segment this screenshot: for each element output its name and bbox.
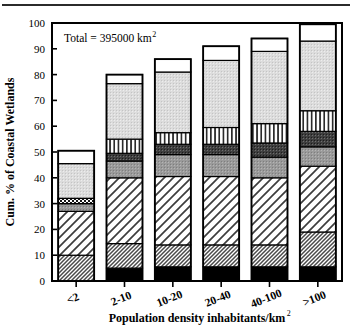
x-axis: <22-1010-2020-4040-100>100 [65, 281, 328, 310]
bar-segment-light-gray [203, 60, 239, 127]
bar-segment-diagonal-hatch [300, 166, 336, 232]
bar-segment-medium-gray [107, 161, 143, 178]
bar-segment-white [252, 38, 288, 51]
x-axis-tick-label: 2-10 [109, 289, 133, 308]
bar-segment-checkered-band [58, 198, 94, 203]
bar-segment-vertical-stripe [155, 133, 191, 145]
x-axis-title: Population density inhabitants/km [109, 311, 286, 325]
bar-segment-medium-gray [300, 147, 336, 166]
bar-40-100 [252, 38, 288, 281]
bar-segment-diagonal-hatch [252, 178, 288, 245]
bar-10-20 [155, 59, 191, 281]
bar-segment-dark-gray-speckle [300, 131, 336, 146]
bar-segment-light-gray [300, 41, 336, 111]
bar-segment-medium-gray [58, 204, 94, 212]
bar-20-40 [203, 46, 239, 281]
x-axis-tick-label: >100 [301, 288, 328, 308]
bar-segment-solid-black [300, 267, 336, 281]
page-top-rule [2, 4, 350, 6]
bar-segment-light-gray [58, 164, 94, 199]
y-axis-tick-label: 10 [34, 249, 46, 261]
bar-segment-white [300, 24, 336, 41]
bar-segment-solid-black [107, 268, 143, 281]
y-axis-tick-label: 50 [34, 146, 46, 158]
bar-segment-medium-gray [155, 155, 191, 177]
bar-segment-white [58, 151, 94, 164]
bar-segment-light-gray [155, 72, 191, 133]
bar-segment-dense-crosshatch [300, 232, 336, 267]
bar-segment-solid-black [203, 267, 239, 281]
x-axis-title-superscript: 2 [287, 309, 291, 318]
bar-segment-solid-black [252, 267, 288, 281]
bar-segment-dark-gray-speckle [155, 144, 191, 154]
bar-segment-dark-gray-speckle [203, 144, 239, 154]
bar-segment-dense-crosshatch [107, 244, 143, 269]
x-axis-tick-label: <2 [65, 290, 81, 306]
x-axis-tick-label: 20-40 [203, 288, 233, 309]
x-axis-tick-label: 40-100 [249, 287, 284, 310]
y-axis-title: Cum. % of Coastal Wetlands [3, 77, 17, 226]
bar-segment-dense-crosshatch [58, 255, 94, 281]
y-axis-tick-label: 30 [34, 198, 46, 210]
bar-segment-vertical-stripe [203, 127, 239, 144]
bar-segment-diagonal-hatch [155, 177, 191, 245]
bar-2-10 [107, 75, 143, 281]
y-axis-tick-label: 60 [34, 120, 46, 132]
bar-segment-diagonal-hatch [203, 177, 239, 245]
bar-segment-dark-gray-speckle [252, 143, 288, 157]
y-axis-tick-label: 100 [29, 17, 46, 29]
x-axis-tick-label: 10-20 [155, 288, 185, 309]
bar-segment-diagonal-hatch [58, 211, 94, 255]
bar-segment-solid-black [155, 267, 191, 281]
bar->100 [300, 24, 336, 281]
bar-segment-dense-crosshatch [203, 245, 239, 267]
y-axis-tick-label: 40 [34, 172, 46, 184]
bar-segment-medium-gray [203, 155, 239, 177]
y-axis-tick-label: 90 [34, 43, 46, 55]
bar-<2 [58, 151, 94, 281]
bar-segment-dark-gray-speckle [107, 153, 143, 161]
bar-segment-vertical-stripe [107, 139, 143, 153]
y-axis-tick-label: 20 [34, 223, 46, 235]
bar-segment-medium-gray [252, 157, 288, 178]
total-annotation-superscript: 2 [152, 30, 156, 39]
bar-segment-light-gray [252, 51, 288, 123]
chart-figure: 0102030405060708090100 <22-1010-2020-404… [0, 0, 352, 329]
stacked-bar-chart: 0102030405060708090100 <22-1010-2020-404… [0, 0, 352, 329]
bar-segment-vertical-stripe [252, 124, 288, 143]
total-annotation: Total = 395000 km [64, 32, 152, 44]
y-axis-tick-label: 80 [34, 69, 46, 81]
bar-segment-dense-crosshatch [155, 245, 191, 267]
bar-segment-diagonal-hatch [107, 178, 143, 244]
plot-frame [52, 23, 342, 281]
bar-segment-white [203, 46, 239, 60]
y-axis-tick-label: 0 [40, 275, 46, 287]
bar-segment-white [155, 59, 191, 72]
bar-segment-vertical-stripe [300, 111, 336, 132]
bar-segment-dense-crosshatch [252, 245, 288, 267]
bar-segment-light-gray [107, 84, 143, 139]
y-axis-tick-label: 70 [34, 94, 46, 106]
bar-segment-white [107, 75, 143, 84]
